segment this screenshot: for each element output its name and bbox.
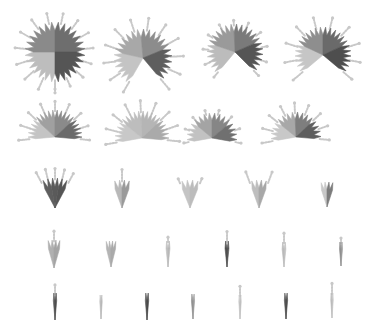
- glyph-sector: [193, 294, 195, 319]
- radial-glyph: [284, 293, 287, 319]
- glyph-sector: [252, 180, 259, 208]
- glyph-sector: [48, 240, 54, 268]
- radial-glyph: [238, 285, 241, 319]
- radial-glyph: [14, 12, 95, 95]
- glyph-sector: [55, 52, 85, 82]
- glyph-sector: [259, 180, 266, 208]
- whisker-rays: [35, 167, 75, 183]
- radial-glyph: [35, 167, 75, 208]
- glyph-row-3: [35, 167, 333, 208]
- radial-glyph: [177, 177, 204, 208]
- glyph-sector: [122, 180, 129, 208]
- glyph-sector: [54, 240, 60, 268]
- radial-glyph: [48, 230, 60, 268]
- glyph-sector: [284, 242, 286, 267]
- whisker-rays: [120, 168, 123, 181]
- radial-glyph: [339, 236, 342, 266]
- radial-glyph: [115, 168, 130, 208]
- radial-glyph: [182, 109, 242, 145]
- whisker-rays: [282, 232, 285, 244]
- glyph-sector: [332, 293, 333, 318]
- radial-glyph: [100, 295, 102, 319]
- radial-glyph: [17, 100, 91, 142]
- radial-glyph: [145, 293, 148, 320]
- radial-glyph: [191, 294, 194, 319]
- glyph-sector: [182, 180, 190, 208]
- whisker-rays: [177, 177, 204, 183]
- glyph-row-2: [17, 99, 331, 146]
- glyph-grid-chart: [0, 0, 373, 331]
- glyph-sector: [341, 242, 343, 266]
- radial-glyph: [283, 16, 361, 81]
- glyph-sector: [227, 241, 229, 267]
- glyph-sector: [115, 180, 122, 208]
- radial-glyph: [225, 230, 229, 267]
- radial-glyph: [53, 283, 56, 320]
- glyph-sector: [25, 52, 55, 82]
- glyph-sector: [114, 53, 143, 81]
- glyph-sector: [111, 241, 116, 267]
- radial-glyph: [244, 170, 273, 208]
- radial-glyph: [330, 282, 333, 318]
- glyph-sector: [106, 241, 111, 267]
- glyph-sector: [321, 182, 327, 207]
- radial-glyph: [260, 101, 331, 144]
- glyph-sector: [101, 295, 102, 319]
- glyph-row-4: [48, 230, 342, 268]
- whisker-rays: [53, 283, 56, 294]
- glyph-sector: [168, 241, 170, 267]
- glyph-sector: [190, 180, 198, 208]
- radial-glyph: [282, 232, 286, 267]
- whisker-rays: [244, 170, 273, 183]
- radial-glyph: [106, 241, 115, 267]
- radial-glyph: [201, 19, 268, 79]
- whisker-rays: [52, 230, 55, 242]
- glyph-sector: [55, 293, 57, 320]
- glyph-sector: [147, 293, 149, 320]
- whisker-rays: [238, 285, 241, 297]
- glyph-row-1: [14, 12, 362, 95]
- radial-glyph: [321, 182, 333, 207]
- glyph-row-5: [53, 282, 333, 320]
- radial-glyph: [102, 17, 185, 94]
- whisker-rays: [330, 282, 333, 294]
- glyph-sector: [286, 293, 288, 319]
- whisker-rays: [225, 230, 228, 242]
- glyph-sector: [240, 295, 241, 319]
- radial-glyph: [104, 99, 181, 146]
- glyph-sector: [327, 182, 333, 207]
- radial-glyph: [166, 236, 170, 267]
